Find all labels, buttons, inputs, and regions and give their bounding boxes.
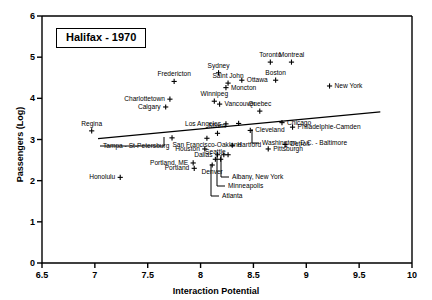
- x-tick-label: 7: [92, 271, 97, 280]
- data-point-label: Montreal: [279, 52, 305, 59]
- y-axis-title: Passengers (Log): [16, 95, 25, 195]
- data-point-marker: [266, 146, 271, 151]
- data-point-label: Saint John: [212, 73, 243, 80]
- data-point-marker: [215, 131, 220, 136]
- data-point-label: Tampa - St-Petersburg: [103, 143, 169, 150]
- data-point-marker: [89, 128, 94, 133]
- data-point-marker: [273, 78, 278, 83]
- x-tick-label: 10: [407, 271, 417, 280]
- data-point-label: Minneapolis: [228, 183, 263, 190]
- data-point-label: Portland: [165, 165, 190, 172]
- data-point-marker: [163, 104, 168, 109]
- y-tick-label: 6: [18, 12, 35, 21]
- data-point-marker: [167, 97, 172, 102]
- data-point-marker: [212, 99, 217, 104]
- x-tick-label: 6.5: [36, 271, 49, 280]
- y-tick-label: 1: [18, 217, 35, 226]
- data-point-marker: [192, 166, 197, 171]
- data-point-label: Boston: [265, 70, 286, 77]
- y-tick-label: 0: [18, 259, 35, 268]
- data-point-marker: [289, 60, 294, 65]
- data-point-label: Miami: [209, 123, 227, 130]
- chart-title-box: Halifax - 1970: [56, 28, 146, 48]
- data-point-label: Charlottetown: [124, 96, 165, 103]
- data-point-label: Quebec: [248, 101, 271, 108]
- data-point-label: Pittsburgh: [273, 146, 303, 153]
- data-point-marker: [327, 83, 332, 88]
- data-point-label: Seattle: [205, 149, 226, 156]
- x-axis-title: Interaction Potential: [0, 287, 432, 296]
- data-point-marker: [172, 79, 177, 84]
- x-tick-label: 9.5: [353, 271, 366, 280]
- data-point-label: Hartford: [237, 142, 261, 149]
- data-point-label: Philadelphie-Camden: [298, 124, 361, 131]
- data-point-label: Albany, New York: [232, 174, 283, 181]
- y-tick-label: 5: [18, 53, 35, 62]
- data-point-label: Denver: [202, 169, 223, 176]
- data-point-label: New York: [335, 83, 363, 90]
- data-point-marker: [169, 135, 174, 140]
- data-point-label: Calgary: [138, 104, 161, 111]
- data-point-marker: [217, 101, 222, 106]
- x-tick-label: 8.5: [247, 271, 260, 280]
- data-point-label: Fredericton: [157, 71, 190, 78]
- x-tick-label: 8: [198, 271, 203, 280]
- axis-frame: [42, 16, 412, 263]
- data-point-label: Cleveland: [255, 127, 284, 134]
- data-point-label: Moncton: [231, 84, 256, 91]
- data-point-marker: [257, 108, 262, 113]
- data-point-marker: [268, 60, 273, 65]
- data-point-label: Honolulu: [89, 174, 115, 181]
- data-point-marker: [225, 81, 230, 86]
- data-point-label: Atlanta: [222, 193, 243, 200]
- data-point-marker: [191, 160, 196, 165]
- data-point-label: Regina: [81, 121, 102, 128]
- x-tick-label: 9: [304, 271, 309, 280]
- data-point-label: Sydney: [208, 63, 230, 70]
- chart-container: Halifax - 1970 6.577.588.599.5100123456 …: [0, 0, 432, 300]
- data-point-label: Winnipeg: [201, 91, 229, 98]
- x-tick-label: 7.5: [141, 271, 154, 280]
- data-point-marker: [118, 175, 123, 180]
